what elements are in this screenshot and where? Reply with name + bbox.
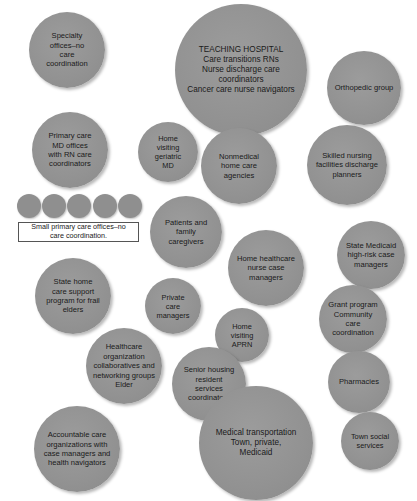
bubble-label: Private care managers [157,293,190,320]
bubble-home-healthcare-nurse: Home healthcare nurse case managers [228,230,304,306]
small-office-dot [67,194,91,218]
bubble-teaching-hospital: TEACHING HOSPITAL Care transitions RNs N… [175,4,307,136]
bubble-state-medicaid: State Medicaid high-risk case managers [337,221,405,289]
bubble-label: Nonmedical home care agencies [219,152,259,180]
bubble-orthopedic-group: Orthopedic group [327,51,401,125]
bubble-label: Patients and family caregivers [165,218,207,246]
bubble-home-visiting-geriatric-md: Home visiting geriatric MD [138,122,198,182]
bubble-label: Orthopedic group [335,83,394,92]
bubble-skilled-nursing: Skilled nursing facilities discharge pla… [307,125,387,205]
bubble-town-social-services: Town social services [341,412,399,470]
bubble-nonmedical-home-care: Nonmedical home care agencies [201,128,277,204]
small-office-dot [93,194,117,218]
small-office-dot [42,194,66,218]
bubble-private-care-managers: Private care managers [145,278,201,334]
small-office-dot [118,194,142,218]
bubble-pharmacies: Pharmacies [328,351,390,413]
bubble-label: Grant program Community care coordinatio… [328,300,377,338]
bubble-label: Pharmacies [339,377,379,386]
bubble-label: State home care support program for frai… [46,277,100,315]
bubble-medical-transportation: Medical transportation Town, private, Me… [199,386,313,500]
bubble-primary-care-md: Primary care MD offices with RN care coo… [32,112,108,188]
bubble-healthcare-org-collaboratives: Healthcare organization collaboratives a… [86,328,162,404]
bubble-label: Home healthcare nurse case managers [237,254,295,282]
bubble-label: Primary care MD offices with RN care coo… [48,131,91,169]
bubble-specialty-offices: Specialty offices–no care coordination [29,12,105,88]
bubble-label: Healthcare organization collaboratives a… [93,342,155,389]
bubble-grant-program: Grant program Community care coordinatio… [319,285,387,353]
bubble-accountable-care: Accountable care organizations with case… [34,406,120,492]
small-office-dot [17,194,41,218]
bubble-label: Specialty offices–no care coordination [46,31,87,69]
bubble-state-home-care: State home care support program for frai… [35,258,111,334]
bubble-label: Accountable care organizations with case… [44,430,111,468]
bubble-label: Home visiting APRN [231,322,254,349]
bubble-label: State Medicaid high-risk case managers [346,241,396,269]
small-offices-label: Small primary care offices–no care coord… [18,222,139,242]
bubble-label: Home visiting geriatric MD [155,134,181,170]
bubble-patients-caregivers: Patients and family caregivers [150,196,222,268]
bubble-label: Town social services [351,432,389,450]
bubble-label: Skilled nursing facilities discharge pla… [316,151,378,179]
bubble-label: Medical transportation Town, private, Me… [216,428,297,458]
bubble-label: TEACHING HOSPITAL Care transitions RNs N… [187,45,294,95]
